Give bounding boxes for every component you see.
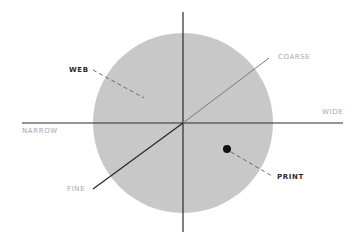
narrow-label: NARROW xyxy=(22,127,58,135)
coarse-label: COARSE xyxy=(278,53,310,61)
print-label: PRINT xyxy=(277,173,304,181)
diagram-canvas xyxy=(0,0,362,244)
web-label: WEB xyxy=(69,66,89,74)
wide-label: WIDE xyxy=(322,108,343,116)
print-point-marker xyxy=(223,145,231,153)
fine-label: FINE xyxy=(67,185,85,193)
